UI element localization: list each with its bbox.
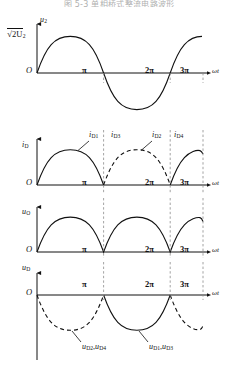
curve-uD-hump3 — [170, 295, 203, 330]
curve-label-uD1-uD3: uD1,uD3 — [149, 343, 173, 352]
panel-u2-x-label: ωt — [212, 68, 219, 75]
panel-iD-origin-label: O — [26, 178, 32, 187]
panel-iD-tick-pi: π — [82, 178, 87, 187]
curve-label-iD1: iD1 — [89, 131, 98, 140]
curve-label-iD4: iD4 — [174, 131, 183, 140]
panel-u2-origin-label: O — [26, 66, 32, 75]
panel-uO-tick-3pi: 3π — [180, 245, 189, 254]
panel-uO-tick-2pi: 2π — [145, 245, 154, 254]
figure-root: 图 5-3 单相桥式整流电路波形 — [0, 0, 238, 371]
panel-uD-origin-label: O — [26, 288, 32, 297]
panel-uD-tick-pi: π — [82, 280, 87, 289]
panel-uO-x-label: ωt — [212, 247, 219, 254]
curve-label-iD3: iD3 — [111, 131, 120, 140]
panel-u2-y-label: u2 — [40, 16, 47, 25]
iD-leader-lines — [78, 141, 152, 151]
curve-uO — [37, 217, 203, 252]
panel-uD-y-label: uD — [22, 264, 30, 273]
panel-u2-tick-2pi: 2π — [145, 66, 154, 75]
curve-label-uD2-uD4: uD2,uD4 — [82, 343, 106, 352]
uD-leader-lines — [72, 331, 148, 342]
panel-u2-tick-3pi: 3π — [180, 66, 189, 75]
panel-iD-tick-3pi: 3π — [180, 178, 189, 187]
panel-uO-origin-label: O — [26, 245, 32, 254]
curve-uD-hump2 — [104, 295, 171, 330]
curve-iD-hump1 — [37, 150, 104, 185]
curve-uD-hump1 — [37, 295, 104, 330]
curve-iD-hump2 — [104, 150, 171, 185]
curve-label-iD2: iD2 — [152, 131, 161, 140]
panel-u2-tick-pi: π — [82, 66, 87, 75]
panel-iD-y-label: iD — [22, 141, 28, 150]
waveform-diagram — [0, 0, 238, 371]
panel-uO-tick-pi: π — [82, 245, 87, 254]
panel-uD-tick-2pi: 2π — [145, 280, 154, 289]
panel-u2-amplitude-label: √2U2 — [7, 30, 26, 40]
panel-iD-x-label: ωt — [212, 180, 219, 187]
panel-uD-tick-3pi: 3π — [180, 280, 189, 289]
panel-iD-tick-2pi: 2π — [145, 178, 154, 187]
panel-uO-y-label: uO — [22, 208, 30, 217]
panel-uD-x-label: ωt — [212, 290, 219, 297]
